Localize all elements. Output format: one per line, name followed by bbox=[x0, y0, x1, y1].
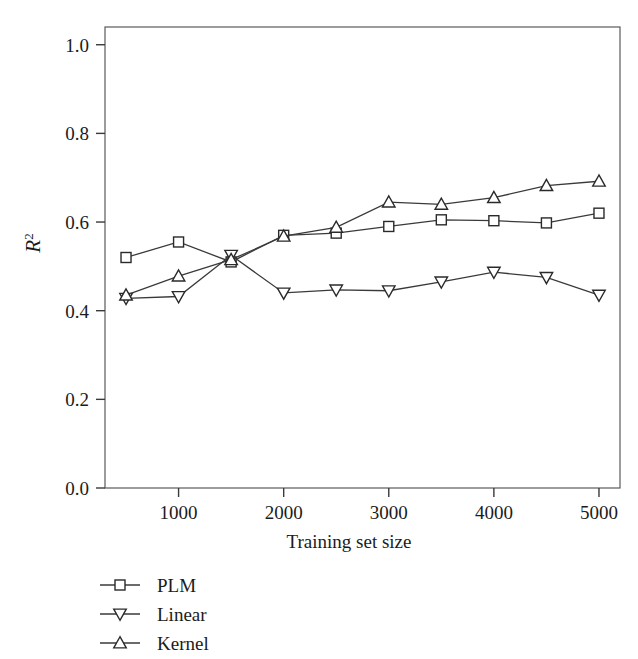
triangle-up-marker bbox=[114, 637, 127, 648]
y-axis-ticks: 0.00.20.40.60.81.0 bbox=[65, 35, 105, 499]
x-axis-title: Training set size bbox=[287, 531, 412, 552]
triangle-down-marker bbox=[114, 609, 127, 620]
y-tick-label: 0.0 bbox=[65, 478, 89, 499]
data-point-marker bbox=[489, 216, 499, 226]
y-tick-label: 0.2 bbox=[65, 389, 89, 410]
plot-frame bbox=[105, 27, 620, 488]
x-tick-label: 4000 bbox=[475, 502, 513, 523]
r2-vs-training-set-size-chart: 0.00.20.40.60.81.0 10002000300040005000 … bbox=[0, 0, 638, 659]
chart-legend: PLMLinearKernel bbox=[100, 575, 209, 654]
y-axis-title-exponent: 2 bbox=[21, 233, 36, 240]
data-point-marker bbox=[174, 237, 184, 247]
legend-item-linear: Linear bbox=[100, 604, 207, 625]
x-tick-label: 1000 bbox=[160, 502, 198, 523]
legend-label: Linear bbox=[157, 604, 207, 625]
y-tick-label: 0.6 bbox=[65, 212, 89, 233]
chart-page: 0.00.20.40.60.81.0 10002000300040005000 … bbox=[0, 0, 638, 659]
data-point-marker bbox=[594, 208, 604, 218]
svg-text:R2: R2 bbox=[21, 233, 45, 253]
legend-item-plm: PLM bbox=[100, 575, 196, 596]
data-point-marker bbox=[384, 221, 394, 231]
data-point-marker bbox=[541, 218, 551, 228]
data-point-marker bbox=[121, 253, 131, 263]
y-axis-title: R2 bbox=[21, 233, 45, 253]
y-tick-label: 0.4 bbox=[65, 301, 89, 322]
x-tick-label: 5000 bbox=[580, 502, 618, 523]
data-point-marker bbox=[436, 215, 446, 225]
y-tick-label: 0.8 bbox=[65, 123, 89, 144]
legend-label: Kernel bbox=[157, 633, 209, 654]
x-axis-ticks: 10002000300040005000 bbox=[160, 488, 618, 523]
legend-item-kernel: Kernel bbox=[100, 633, 209, 654]
y-axis-title-base: R bbox=[21, 240, 45, 254]
square-marker bbox=[115, 580, 125, 590]
y-tick-label: 1.0 bbox=[65, 35, 89, 56]
legend-label: PLM bbox=[157, 575, 196, 596]
chart-svg: 0.00.20.40.60.81.0 10002000300040005000 … bbox=[0, 0, 638, 659]
x-tick-label: 3000 bbox=[370, 502, 408, 523]
x-tick-label: 2000 bbox=[265, 502, 303, 523]
